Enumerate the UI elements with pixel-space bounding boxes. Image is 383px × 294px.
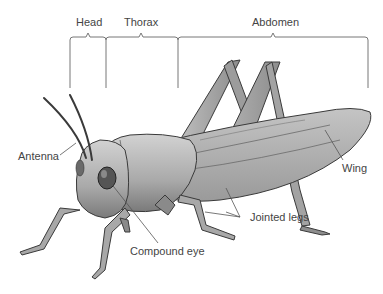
segment-label-thorax: Thorax <box>124 16 158 28</box>
antenna-leader <box>60 143 76 155</box>
jointed-legs-leader <box>205 212 240 217</box>
segment-label-head: Head <box>76 16 102 28</box>
head-bracket <box>70 33 106 88</box>
label-wing: Wing <box>342 162 367 174</box>
grasshopper-diagram: Head Thorax Abdomen Antenna Compound eye… <box>0 0 383 294</box>
label-antenna: Antenna <box>18 150 59 162</box>
thorax-bracket <box>106 33 178 88</box>
label-jointed-legs: Jointed legs <box>250 211 309 223</box>
segment-label-abdomen: Abdomen <box>252 16 299 28</box>
label-compound-eye: Compound eye <box>130 245 205 257</box>
